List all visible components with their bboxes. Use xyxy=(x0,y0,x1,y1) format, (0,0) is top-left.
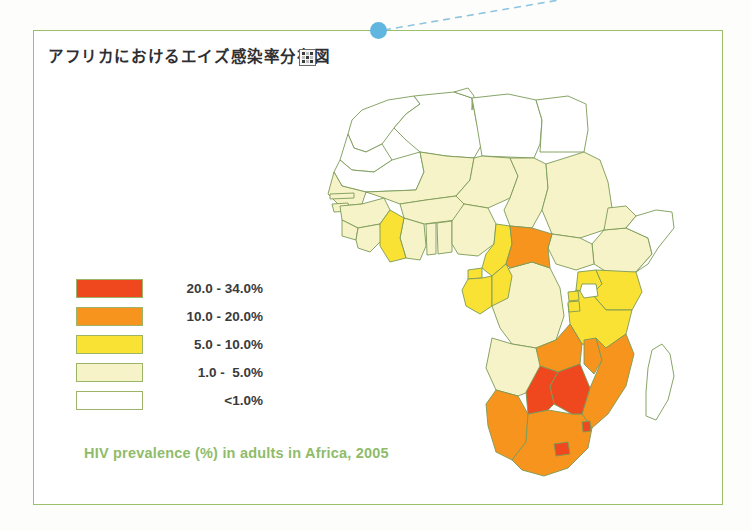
legend-swatch-1-5 xyxy=(76,363,143,382)
legend-label-10-20: 10.0 - 20.0% xyxy=(159,309,263,324)
region-swaziland[interactable] xyxy=(582,421,591,432)
region-rwanda[interactable] xyxy=(568,291,579,301)
connector-dot xyxy=(370,22,387,39)
region-burundi[interactable] xyxy=(568,301,580,312)
region-equatorial-guinea[interactable] xyxy=(468,268,482,279)
broken-image-icon xyxy=(299,49,316,66)
legend-swatch-10-20 xyxy=(76,307,143,326)
legend-label-20-34: 20.0 - 34.0% xyxy=(159,281,263,296)
legend-item[interactable]: <1.0% xyxy=(76,387,263,413)
legend-label-1-5: 1.0 - 5.0% xyxy=(159,365,263,380)
region-gambia[interactable] xyxy=(330,193,354,199)
region-liberia[interactable] xyxy=(356,224,382,252)
region-libya[interactable] xyxy=(472,94,542,158)
legend-item[interactable]: 5.0 - 10.0% xyxy=(76,331,263,357)
region-lesotho[interactable] xyxy=(554,442,570,456)
map-caption: HIV prevalence (%) in adults in Africa, … xyxy=(84,445,389,461)
legend-label-5-10: 5.0 - 10.0% xyxy=(159,337,263,352)
region-togo[interactable] xyxy=(426,223,436,255)
region-madagascar[interactable] xyxy=(646,344,674,420)
region-central-african-republic[interactable] xyxy=(506,226,552,268)
region-egypt[interactable] xyxy=(536,96,588,152)
region-benin[interactable] xyxy=(437,221,452,254)
connector-leader-line xyxy=(384,0,559,32)
legend-swatch-20-34 xyxy=(76,279,143,298)
region-lake-victoria xyxy=(580,284,598,298)
region-south-sudan[interactable] xyxy=(548,234,594,270)
region-nigeria[interactable] xyxy=(452,204,496,256)
page-title: アフリカにおけるエイズ感染率分布図 xyxy=(48,44,330,66)
region-gabon[interactable] xyxy=(462,276,492,314)
africa-choropleth-map[interactable] xyxy=(296,48,716,488)
legend: 20.0 - 34.0% 10.0 - 20.0% 5.0 - 10.0% 1.… xyxy=(76,275,263,415)
legend-item[interactable]: 10.0 - 20.0% xyxy=(76,303,263,329)
legend-swatch-5-10 xyxy=(76,335,143,354)
region-sudan[interactable] xyxy=(542,152,612,238)
legend-item[interactable]: 1.0 - 5.0% xyxy=(76,359,263,385)
legend-item[interactable]: 20.0 - 34.0% xyxy=(76,275,263,301)
legend-swatch-under-1 xyxy=(76,391,143,410)
legend-label-under-1: <1.0% xyxy=(159,393,263,408)
